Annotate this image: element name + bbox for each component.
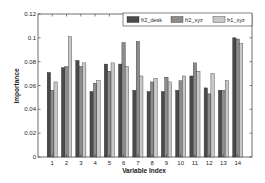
bar-fr1_xyz-10 [182, 76, 185, 157]
bar-fr2_xyz-3 [79, 66, 82, 157]
bar-fr1_xyz-5 [111, 63, 114, 157]
y-tick-label: 0.02 [24, 130, 36, 136]
x-tick-label: 3 [79, 160, 83, 166]
bar-fr2_desk-14 [233, 38, 236, 157]
bar-fr2_xyz-6 [122, 43, 125, 157]
x-tick-label: 2 [65, 160, 69, 166]
bar-fr2_desk-1 [47, 72, 50, 157]
y-tick-label: 0.06 [24, 83, 36, 89]
x-axis-title: Variable Index [122, 167, 166, 174]
y-axis-title: Importance [13, 68, 21, 103]
legend-label: fr2_xyz [185, 17, 203, 23]
bar-fr1_xyz-14 [239, 44, 242, 157]
x-tick-label: 7 [136, 160, 140, 166]
x-tick-label: 9 [165, 160, 169, 166]
bar-fr2_desk-7 [133, 90, 136, 157]
bar-fr1_xyz-1 [54, 82, 57, 157]
x-tick-label: 4 [93, 160, 97, 166]
legend-swatch-fr2_xyz [171, 17, 183, 23]
bar-fr2_xyz-1 [51, 90, 54, 157]
bar-fr2_xyz-10 [179, 81, 182, 157]
legend-swatch-fr2_desk [127, 17, 139, 23]
bar-fr2_desk-8 [147, 91, 150, 157]
x-tick-label: 6 [122, 160, 126, 166]
bar-fr1_xyz-6 [125, 66, 128, 157]
bar-fr1_xyz-12 [211, 74, 214, 157]
bar-fr1_xyz-3 [83, 63, 86, 157]
bar-fr1_xyz-11 [197, 71, 200, 157]
bar-fr2_xyz-11 [193, 63, 196, 157]
x-tick-label: 14 [234, 160, 241, 166]
y-tick-label: 0.1 [28, 35, 37, 41]
bar-fr2_desk-9 [161, 91, 164, 157]
x-tick-label: 11 [192, 160, 199, 166]
legend-swatch-fr1_xyz [213, 17, 225, 23]
bar-fr2_xyz-12 [208, 94, 211, 157]
legend: fr2_deskfr2_xyzfr1_xyz [123, 13, 252, 26]
x-tick-label: 10 [177, 160, 184, 166]
y-tick-label: 0.04 [24, 106, 36, 112]
bar-fr2_desk-10 [176, 90, 179, 157]
bar-fr2_desk-2 [61, 68, 64, 157]
legend-label: fr1_xyz [227, 17, 245, 23]
bar-fr2_xyz-2 [65, 66, 68, 157]
bar-fr2_desk-12 [204, 88, 207, 157]
x-tick-label: 5 [108, 160, 112, 166]
y-tick-label: 0.08 [24, 59, 36, 65]
bar-fr2_xyz-5 [108, 71, 111, 157]
bar-fr2_desk-6 [119, 64, 122, 157]
bar-fr1_xyz-7 [140, 76, 143, 157]
bar-fr2_desk-4 [90, 91, 93, 157]
bar-fr2_xyz-8 [150, 82, 153, 157]
bar-fr2_xyz-4 [93, 83, 96, 157]
x-tick-label: 12 [206, 160, 213, 166]
x-tick-label: 13 [220, 160, 227, 166]
bar-fr2_desk-13 [218, 90, 221, 157]
y-tick-label: 0 [33, 154, 37, 160]
x-tick-label: 8 [150, 160, 154, 166]
bar-fr2_xyz-7 [136, 41, 139, 157]
y-tick-label: 0.12 [24, 11, 36, 17]
bar-fr2_desk-5 [104, 64, 107, 157]
bar-fr2_desk-11 [190, 76, 193, 157]
legend-label: fr2_desk [141, 17, 162, 23]
bar-chart: 00.020.040.060.080.10.12 123456789101112… [0, 0, 265, 183]
bar-fr2_xyz-9 [165, 77, 168, 157]
bar-fr2_desk-3 [76, 60, 79, 157]
x-tick-label: 1 [51, 160, 55, 166]
bar-fr1_xyz-8 [154, 78, 157, 157]
bar-fr1_xyz-4 [97, 81, 100, 157]
bar-fr1_xyz-2 [68, 37, 71, 157]
bar-fr2_xyz-14 [236, 39, 239, 157]
bar-fr2_xyz-13 [222, 90, 225, 157]
bar-fr1_xyz-9 [168, 82, 171, 157]
bar-fr1_xyz-13 [225, 81, 228, 157]
